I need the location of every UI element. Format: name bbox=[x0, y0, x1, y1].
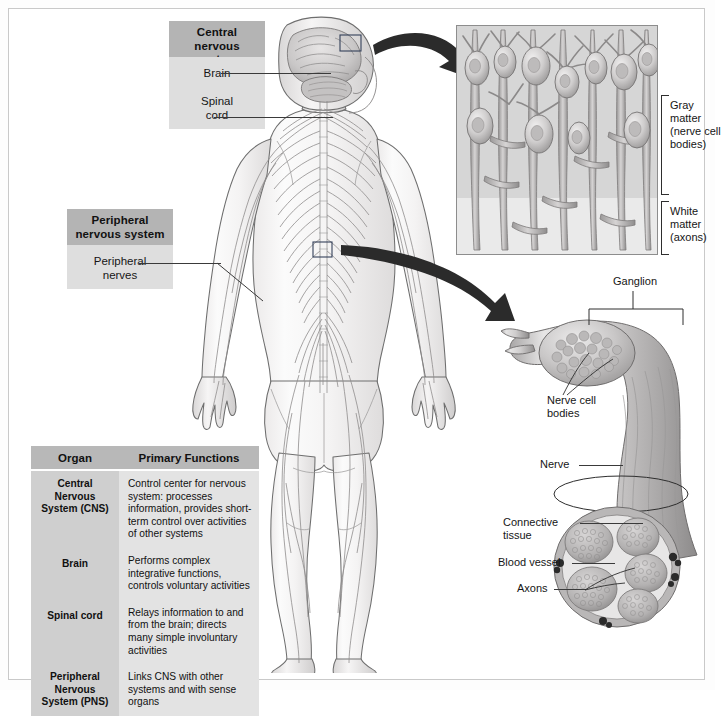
peripheral-nerves-leader-line bbox=[139, 263, 221, 264]
cns-header-line1: Central bbox=[177, 26, 257, 40]
white-matter-label: White matter (axons) bbox=[670, 205, 722, 244]
pns-header-line1: Peripheral bbox=[75, 214, 165, 228]
table-header-functions: Primary Functions bbox=[119, 452, 259, 464]
peripheral-nerves-pointer bbox=[217, 261, 273, 303]
organ-function-table: Organ Primary Functions Central Nervous … bbox=[31, 446, 259, 716]
gray-matter-line1: Gray bbox=[670, 99, 722, 112]
blood-vessel-label: Blood vessel bbox=[498, 556, 560, 569]
peripheral-nerves-label-line2: nerves bbox=[75, 268, 165, 282]
gray-white-matter-inset bbox=[456, 25, 658, 255]
axons-label-text: Axons bbox=[517, 582, 548, 594]
axons-pointers bbox=[583, 565, 639, 593]
gray-matter-bracket bbox=[661, 95, 662, 195]
cns-sub-panel: Brain Spinal cord bbox=[169, 57, 265, 129]
gray-matter-line4: bodies) bbox=[670, 138, 722, 151]
axons-leader-line bbox=[554, 589, 586, 590]
nerve-cell-bodies-label: Nerve cell bodies bbox=[547, 394, 617, 420]
nerve-leader-line bbox=[579, 465, 623, 466]
brain-leader-line bbox=[221, 73, 331, 74]
organ-line1: Brain bbox=[35, 558, 115, 571]
axons-label: Axons bbox=[517, 582, 548, 595]
organ-line2: Nervous bbox=[35, 491, 115, 504]
ganglion-label: Ganglion bbox=[590, 275, 680, 288]
table-row: Peripheral Nervous System (PNS) Links CN… bbox=[31, 664, 259, 716]
table-row: Central Nervous System (CNS) Control cen… bbox=[31, 471, 259, 548]
nerve-cell-bodies-pointers bbox=[555, 345, 629, 397]
table-cell-organ: Peripheral Nervous System (PNS) bbox=[31, 664, 119, 716]
connective-tissue-label: Connective tissue bbox=[503, 516, 579, 542]
figure-frame: Central nervous system Brain Spinal cord… bbox=[8, 8, 705, 680]
pns-header-line2: nervous system bbox=[75, 228, 165, 242]
peripheral-nerves-label-line1: Peripheral bbox=[75, 254, 165, 268]
white-matter-bracket bbox=[661, 201, 662, 255]
ganglion-label-text: Ganglion bbox=[613, 275, 657, 287]
table-cell-organ: Brain bbox=[31, 548, 119, 600]
table-cell-functions: Control center for nervous system: proce… bbox=[119, 471, 259, 548]
table-cell-functions: Performs complex integrative functions, … bbox=[119, 548, 259, 600]
table-row: Spinal cord Relays information to and fr… bbox=[31, 600, 259, 664]
table-cell-organ: Spinal cord bbox=[31, 600, 119, 664]
table-row: Brain Performs complex integrative funct… bbox=[31, 548, 259, 600]
table-header-organ: Organ bbox=[31, 452, 119, 464]
organ-line1: Peripheral bbox=[35, 671, 115, 684]
white-matter-line3: (axons) bbox=[670, 231, 722, 244]
connective-tissue-line1: Connective bbox=[503, 516, 579, 529]
organ-line3: System (PNS) bbox=[35, 696, 115, 709]
spinal-cord-leader-line bbox=[214, 117, 333, 118]
table-cell-functions: Links CNS with other systems and with se… bbox=[119, 664, 259, 716]
table-cell-functions: Relays information to and from the brain… bbox=[119, 600, 259, 664]
nerve-label: Nerve bbox=[540, 458, 569, 471]
spinal-cord-illustration bbox=[319, 101, 328, 393]
blood-vessel-leader-line bbox=[572, 563, 615, 564]
table-header-row: Organ Primary Functions bbox=[31, 446, 259, 469]
gray-matter-line3: (nerve cell bbox=[670, 125, 722, 138]
nerve-label-text: Nerve bbox=[540, 458, 569, 470]
nerve-cell-bodies-line2: bodies bbox=[547, 407, 617, 420]
organ-line1: Central bbox=[35, 478, 115, 491]
blood-vessel-label-text: Blood vessel bbox=[498, 556, 560, 568]
pns-sub-panel: Peripheral nerves bbox=[67, 245, 173, 289]
white-matter-line2: matter bbox=[670, 218, 722, 231]
organ-line2: Nervous bbox=[35, 684, 115, 697]
organ-line3: System (CNS) bbox=[35, 503, 115, 516]
gray-matter-line2: matter bbox=[670, 112, 722, 125]
spinal-cord-label-line2: cord bbox=[177, 108, 257, 122]
gray-matter-label: Gray matter (nerve cell bodies) bbox=[670, 99, 722, 151]
connective-tissue-leader-line bbox=[580, 523, 643, 524]
white-matter-line1: White bbox=[670, 205, 722, 218]
spinal-cord-label-line1: Spinal bbox=[177, 94, 257, 108]
connective-tissue-line2: tissue bbox=[503, 529, 579, 542]
organ-line1: Spinal cord bbox=[35, 610, 115, 623]
head-group bbox=[279, 17, 377, 113]
ganglion-bracket bbox=[587, 291, 693, 327]
pns-header-box: Peripheral nervous system bbox=[67, 209, 173, 246]
table-cell-organ: Central Nervous System (CNS) bbox=[31, 471, 119, 548]
